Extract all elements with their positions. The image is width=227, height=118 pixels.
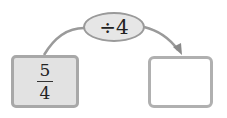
denominator: 4 [40,84,51,102]
division-diagram: ÷4 5 4 [0,0,227,118]
input-box: 5 4 [11,55,79,108]
answer-box[interactable] [148,56,213,108]
fraction-bar [37,81,53,83]
input-fraction: 5 4 [37,61,53,103]
operation-oval: ÷4 [83,12,145,42]
numerator: 5 [40,61,51,79]
operation-label: ÷4 [99,15,128,39]
